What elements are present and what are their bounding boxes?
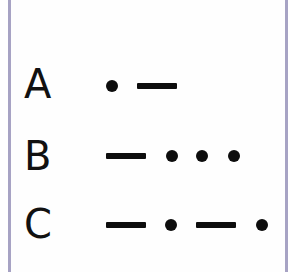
dot-symbol bbox=[165, 219, 177, 231]
morse-row-b: B bbox=[0, 136, 296, 176]
letter-label: A bbox=[24, 64, 51, 104]
morse-row-a: A bbox=[0, 64, 296, 104]
dot-symbol bbox=[166, 150, 178, 162]
dot-symbol bbox=[106, 80, 118, 92]
dash-symbol bbox=[106, 153, 146, 159]
dash-symbol bbox=[196, 222, 236, 228]
dot-symbol bbox=[228, 150, 240, 162]
dot-symbol bbox=[256, 219, 268, 231]
morse-row-c: C bbox=[0, 204, 296, 244]
dot-symbol bbox=[196, 150, 208, 162]
letter-label: C bbox=[24, 204, 52, 244]
dash-symbol bbox=[106, 222, 146, 228]
dash-symbol bbox=[137, 83, 177, 89]
letter-label: B bbox=[24, 136, 51, 176]
